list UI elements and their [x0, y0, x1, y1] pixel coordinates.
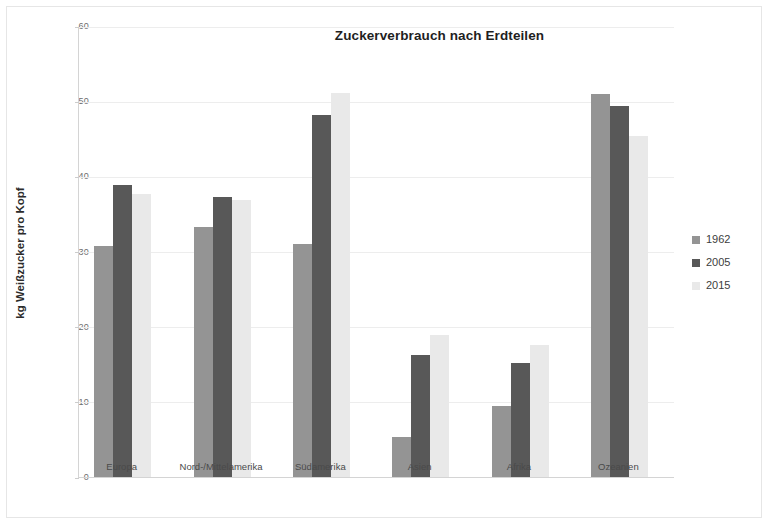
gridline — [79, 327, 674, 328]
bar — [232, 200, 251, 477]
gridline — [79, 177, 674, 178]
gridline — [79, 27, 674, 28]
gridline — [79, 252, 674, 253]
y-axis-tick — [75, 177, 79, 178]
legend-label: 2005 — [706, 257, 730, 268]
bar — [511, 363, 530, 477]
bar — [629, 136, 648, 477]
bar-group — [392, 27, 449, 477]
y-axis-tick — [75, 102, 79, 103]
bar — [610, 106, 629, 477]
x-axis-category-label: Europa — [106, 461, 137, 472]
bar-group — [293, 27, 350, 477]
legend-label: 2015 — [706, 280, 730, 291]
x-axis-category-label: Nord-/Mittelamerika — [180, 461, 263, 472]
bar — [194, 227, 213, 477]
gridline — [79, 402, 674, 403]
bar — [293, 244, 312, 477]
y-axis-title: kg Weißzucker pro Kopf — [14, 187, 26, 318]
bar — [530, 345, 549, 477]
bar-chart: Zuckerverbrauch nach Erdteilen kg Weißzu… — [0, 0, 771, 526]
legend-swatch-icon — [692, 259, 700, 267]
y-axis-tick — [75, 478, 79, 479]
bar — [213, 197, 232, 477]
y-axis-title-wrap: kg Weißzucker pro Kopf — [34, 27, 35, 478]
chart-legend: 196220052015 — [692, 228, 730, 297]
bar — [411, 355, 430, 477]
legend-item[interactable]: 1962 — [692, 228, 730, 251]
y-axis-tick — [75, 402, 79, 403]
bar-group — [94, 27, 151, 477]
bar — [312, 115, 331, 477]
legend-swatch-icon — [692, 236, 700, 244]
legend-item[interactable]: 2005 — [692, 251, 730, 274]
x-axis-category-label: Asien — [408, 461, 432, 472]
legend-label: 1962 — [706, 234, 730, 245]
legend-item[interactable]: 2015 — [692, 274, 730, 297]
bar — [430, 335, 449, 477]
bar-group — [194, 27, 251, 477]
bar-group — [492, 27, 549, 477]
gridline — [79, 102, 674, 103]
bar — [331, 93, 350, 477]
bar-group — [591, 27, 648, 477]
x-axis-category-label: Südamerika — [295, 461, 346, 472]
bar — [132, 194, 151, 477]
y-axis-tick — [75, 27, 79, 28]
x-axis-category-label: Ozeanien — [598, 461, 639, 472]
bar — [94, 246, 113, 478]
bar — [591, 94, 610, 477]
y-axis-tick — [75, 252, 79, 253]
plot-area — [78, 27, 674, 478]
y-axis-tick — [75, 327, 79, 328]
bar — [113, 185, 132, 477]
x-axis-category-label: Afrika — [507, 461, 531, 472]
legend-swatch-icon — [692, 282, 700, 290]
